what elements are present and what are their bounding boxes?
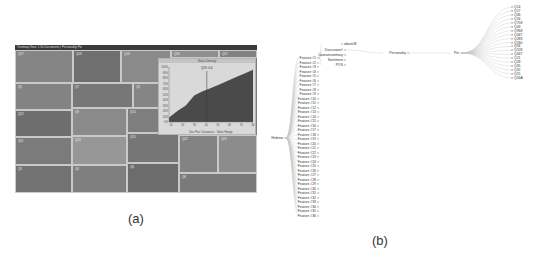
tree-node-root[interactable]: Hebrew ○ xyxy=(271,136,286,140)
tree-node-feature[interactable]: Feature #4 ○ xyxy=(300,70,319,74)
node-label: Feature #25 xyxy=(298,164,316,168)
tree-node-feature[interactable]: Feature #23 ○ xyxy=(298,155,319,159)
node-circle-icon: ○ xyxy=(316,196,319,200)
tree-node-sub[interactable]: Cannotsummary ○ xyxy=(318,53,346,57)
tree-node-feature[interactable]: Feature #7 ○ xyxy=(300,83,319,87)
tree-node-feature[interactable]: Feature #8 ○ xyxy=(300,88,319,92)
node-circle-icon: ○ xyxy=(283,136,286,140)
node-label: Feature #24 xyxy=(298,160,316,164)
tree-node-leaf[interactable]: ○ Q16A xyxy=(511,76,523,80)
tree-node-feature[interactable]: Feature #36 ○ xyxy=(298,214,319,218)
tree-node-feature[interactable]: Feature #29 ○ xyxy=(298,182,319,186)
node-label: Feature #19 xyxy=(298,137,316,141)
node-circle-icon: ○ xyxy=(316,119,319,123)
node-label: Feature #27 xyxy=(298,173,316,177)
tree-node-feature[interactable]: Feature #19 ○ xyxy=(298,137,319,141)
node-label: Sentiment xyxy=(328,58,343,62)
node-label: Hebrew xyxy=(271,136,283,140)
node-circle-icon: ○ xyxy=(343,58,346,62)
tree-node-pie[interactable]: Pie ○ xyxy=(454,51,462,55)
node-circle-icon: ○ xyxy=(459,51,462,55)
node-circle-icon: ○ xyxy=(316,137,319,141)
tree-node-feature[interactable]: Feature #32 ○ xyxy=(298,196,319,200)
tree-node-sub[interactable]: Discussion# ○ xyxy=(325,48,346,52)
tree-node-feature[interactable]: Feature #9 ○ xyxy=(300,92,319,96)
node-label: Feature #15 xyxy=(298,119,316,123)
tree-node-feature[interactable]: Feature #20 ○ xyxy=(298,142,319,146)
node-label: Feature #4 xyxy=(300,70,316,74)
node-circle-icon: ○ xyxy=(316,83,319,87)
node-label: Feature #7 xyxy=(300,83,316,87)
node-label: Feature #3 xyxy=(300,65,316,69)
tree-node-feature[interactable]: Feature #14 ○ xyxy=(298,115,319,119)
node-circle-icon: ○ xyxy=(316,74,319,78)
tree-node-sub[interactable]: ○ above/B xyxy=(341,42,356,46)
tree-node-feature[interactable]: Feature #22 ○ xyxy=(298,151,319,155)
node-circle-icon: ○ xyxy=(316,142,319,146)
node-label: Feature #6 xyxy=(300,79,316,83)
node-circle-icon: ○ xyxy=(316,187,319,191)
node-label: Feature #10 xyxy=(298,97,316,101)
tree-node-feature[interactable]: Feature #2 ○ xyxy=(300,61,319,65)
tree-node-sub[interactable]: POS ○ xyxy=(336,63,346,67)
tree-node-feature[interactable]: Feature #34 ○ xyxy=(298,205,319,209)
node-label: Feature #33 xyxy=(298,200,316,204)
tree-node-feature[interactable]: Feature #28 ○ xyxy=(298,178,319,182)
node-label: Feature #9 xyxy=(300,92,316,96)
node-circle-icon: ○ xyxy=(316,160,319,164)
node-label: Feature #11 xyxy=(298,101,316,105)
node-circle-icon: ○ xyxy=(316,155,319,159)
node-circle-icon: ○ xyxy=(316,151,319,155)
node-label: Feature #30 xyxy=(298,187,316,191)
node-label: above/B xyxy=(344,42,356,46)
tree-node-feature[interactable]: Feature #15 ○ xyxy=(298,119,319,123)
tree-node-feature[interactable]: Feature #1 ○ xyxy=(300,56,319,60)
node-circle-icon: ○ xyxy=(316,133,319,137)
node-label: Feature #2 xyxy=(300,61,316,65)
tree-node-feature[interactable]: Feature #21 ○ xyxy=(298,146,319,150)
node-label: Feature #21 xyxy=(298,146,316,150)
tree-node-feature[interactable]: Feature #12 ○ xyxy=(298,106,319,110)
tree-node-feature[interactable]: Feature #26 ○ xyxy=(298,169,319,173)
tree-node-feature[interactable]: Feature #17 ○ xyxy=(298,128,319,132)
node-circle-icon: ○ xyxy=(316,106,319,110)
tree-node-personality[interactable]: Personality ○ xyxy=(389,51,409,55)
tree-node-feature[interactable]: Feature #31 ○ xyxy=(298,191,319,195)
node-label: Feature #22 xyxy=(298,151,316,155)
tree-node-sub[interactable]: Sentiment ○ xyxy=(328,58,346,62)
node-label: Feature #34 xyxy=(298,205,316,209)
tree-node-feature[interactable]: Feature #25 ○ xyxy=(298,164,319,168)
node-label: Personality xyxy=(389,51,406,55)
tree-node-feature[interactable]: Feature #16 ○ xyxy=(298,124,319,128)
tree-node-feature[interactable]: Feature #3 ○ xyxy=(300,65,319,69)
node-label: Discussion# xyxy=(325,48,343,52)
node-circle-icon: ○ xyxy=(343,48,346,52)
tree-node-feature[interactable]: Feature #35 ○ xyxy=(298,209,319,213)
node-circle-icon: ○ xyxy=(343,63,346,67)
node-label: Feature #29 xyxy=(298,182,316,186)
node-circle-icon: ○ xyxy=(316,164,319,168)
node-circle-icon: ○ xyxy=(316,209,319,213)
node-circle-icon: ○ xyxy=(316,205,319,209)
node-circle-icon: ○ xyxy=(316,88,319,92)
node-circle-icon: ○ xyxy=(406,51,409,55)
tree-node-feature[interactable]: Feature #11 ○ xyxy=(298,101,319,105)
caption-b: (b) xyxy=(372,233,388,248)
tree-node-feature[interactable]: Feature #13 ○ xyxy=(298,110,319,114)
tree-node-feature[interactable]: Feature #5 ○ xyxy=(300,74,319,78)
node-label: Feature #14 xyxy=(298,115,316,119)
tree-node-feature[interactable]: Feature #33 ○ xyxy=(298,200,319,204)
node-label: Feature #32 xyxy=(298,196,316,200)
node-label: Feature #12 xyxy=(298,106,316,110)
node-label: Feature #36 xyxy=(298,214,316,218)
node-label: Feature #5 xyxy=(300,74,316,78)
node-circle-icon: ○ xyxy=(316,128,319,132)
tree-node-feature[interactable]: Feature #6 ○ xyxy=(300,79,319,83)
tree-node-feature[interactable]: Feature #10 ○ xyxy=(298,97,319,101)
tree-node-feature[interactable]: Feature #18 ○ xyxy=(298,133,319,137)
tree-node-feature[interactable]: Feature #27 ○ xyxy=(298,173,319,177)
tree-diagram: Hebrew ○ Feature #1 ○ Feature #2 ○ Featu… xyxy=(0,0,537,263)
tree-node-feature[interactable]: Feature #24 ○ xyxy=(298,160,319,164)
tree-node-feature[interactable]: Feature #30 ○ xyxy=(298,187,319,191)
node-label: Feature #23 xyxy=(298,155,316,159)
